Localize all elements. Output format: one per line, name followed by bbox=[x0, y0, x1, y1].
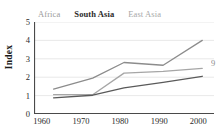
legend-item-africa: Africa bbox=[38, 8, 60, 20]
x-axis-ticks: 19601970198019902000 bbox=[34, 115, 214, 129]
legend-item-east-asia: East Asia bbox=[128, 8, 161, 20]
x-tick-label: 1990 bbox=[142, 115, 176, 127]
series-line-africa bbox=[54, 68, 203, 94]
y-tick-label: 5 bbox=[16, 18, 30, 26]
x-tick-label: 1980 bbox=[103, 115, 137, 127]
y-tick-label: 2 bbox=[16, 73, 30, 81]
y-tick-label: 4 bbox=[16, 36, 30, 44]
plot-area bbox=[34, 22, 214, 114]
y-axis-ticks: 012345 bbox=[16, 22, 30, 114]
y-tick-label: 1 bbox=[16, 92, 30, 100]
x-tick-label: 2000 bbox=[181, 115, 215, 127]
legend-item-south-asia: South Asia bbox=[74, 8, 114, 20]
y-tick-label: 3 bbox=[16, 55, 30, 63]
chart-legend: Africa South Asia East Asia bbox=[38, 8, 210, 20]
y-axis-title: Index bbox=[4, 35, 14, 79]
series-line-east-asia bbox=[54, 40, 203, 89]
line-chart: Africa South Asia East Asia Index 012345… bbox=[0, 0, 219, 138]
plot-svg bbox=[34, 22, 214, 114]
x-tick-label: 1960 bbox=[25, 115, 59, 127]
clipped-edge-glyph: 9 bbox=[211, 58, 219, 68]
x-tick-label: 1970 bbox=[64, 115, 98, 127]
